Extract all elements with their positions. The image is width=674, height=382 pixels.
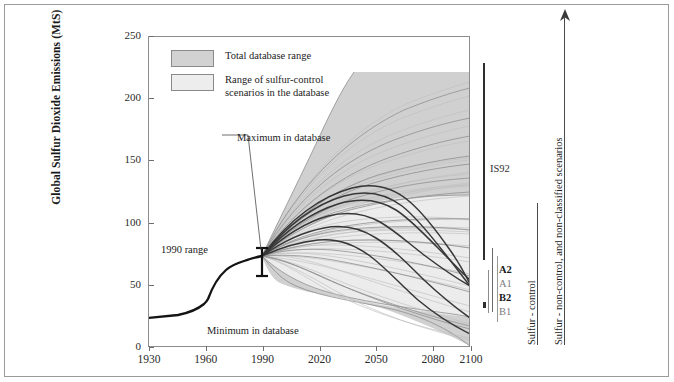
legend-item-control-range: Range of sulfur-control scenarios in the… (171, 74, 350, 100)
range-bar-A2 (492, 248, 493, 313)
legend: Total database range Range of sulfur-con… (171, 50, 350, 107)
sulfur-non-control-span-line (564, 18, 565, 345)
plot-area: 0 50 100 150 200 250 1930 1960 1990 2020… (148, 36, 470, 347)
annotation-1990-range: 1990 range (161, 244, 208, 255)
1990-range-leader-line (222, 135, 261, 250)
sulfur-control-caption: Sulfur - control (526, 280, 537, 345)
annotation-maximum-in-database: Maximum in database (237, 132, 330, 143)
range-bar-B1 (488, 270, 489, 314)
historical-emissions-line (149, 256, 262, 318)
range-label-A1: A1 (499, 278, 512, 289)
legend-label-total-range: Total database range (225, 50, 311, 63)
figure-root: Global Sulfur Dioxide Emissions (MtS) (0, 0, 674, 382)
annotation-minimum-in-database: Minimum in database (207, 325, 299, 336)
range-label-A2: A2 (499, 264, 512, 275)
range-label-B2: B2 (499, 292, 511, 303)
range-bar-B2 (483, 302, 486, 308)
y-axis-title: Global Sulfur Dioxide Emissions (MtS) (49, 7, 63, 207)
sulfur-non-control-caption: Sulfur - non-control, and non-classified… (553, 137, 564, 345)
up-arrow-icon (558, 9, 572, 23)
range-bar-IS92 (483, 63, 485, 260)
legend-item-total-range: Total database range (171, 50, 350, 67)
legend-swatch-total-range (171, 50, 214, 67)
legend-swatch-control-range (171, 74, 214, 91)
legend-label-control-range: Range of sulfur-control scenarios in the… (225, 74, 350, 100)
range-label-IS92: IS92 (490, 163, 510, 174)
range-label-B1: B1 (499, 306, 511, 317)
sulfur-control-span-line (537, 203, 538, 345)
